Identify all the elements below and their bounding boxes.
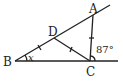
point-label-a: A bbox=[89, 3, 98, 15]
angle-label-87: 87° bbox=[96, 45, 114, 55]
angle-label-x: x bbox=[28, 53, 34, 63]
angle-arc-c bbox=[91, 56, 95, 61]
segment-dc bbox=[54, 38, 90, 61]
point-label-b: B bbox=[3, 56, 12, 68]
geometry-diagram: A B C D x 87° bbox=[0, 0, 123, 82]
diagram-lines bbox=[0, 0, 123, 82]
point-label-d: D bbox=[48, 26, 58, 38]
point-label-c: C bbox=[86, 66, 95, 78]
angle-arc-b bbox=[25, 55, 27, 61]
